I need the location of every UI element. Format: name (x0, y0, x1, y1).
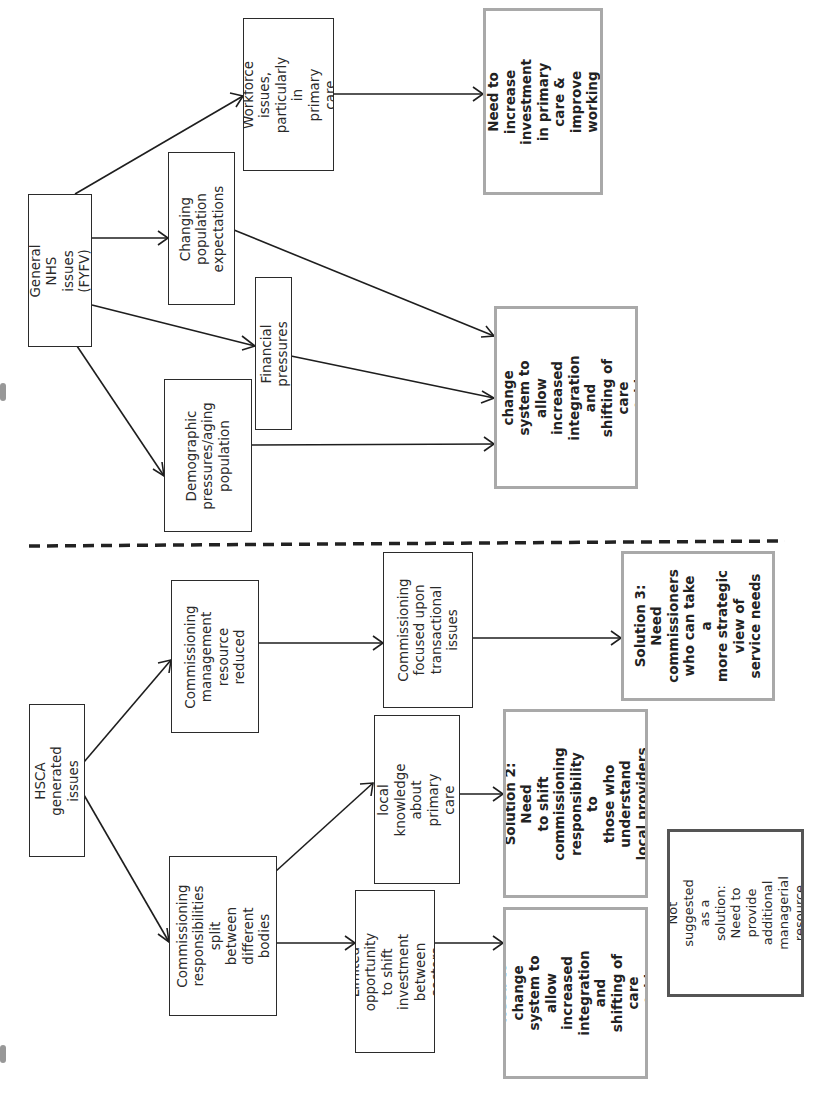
node-commissioning-management-reduced: Commissioning management resource reduce… (171, 580, 259, 733)
arrow-loss-local-to-solution2 (459, 787, 503, 801)
node-label: Changing population expectations (177, 185, 226, 272)
node-solution-3: Solution 3: Need commissioners who can t… (621, 551, 775, 701)
node-label: Loss of local knowledge about primary ca… (374, 763, 460, 836)
node-label: Solution 3: Need commissioners who can t… (632, 569, 764, 682)
node-not-suggested-solution: Not suggested as a solution: Need to pro… (667, 829, 804, 997)
arrow-workforce-to-solution4 (333, 87, 483, 101)
arrow-demographic-to-solution1 (251, 437, 494, 451)
arrow-hsca-to-comm-mgmt (84, 660, 171, 762)
node-label: Financial pressures (257, 321, 290, 386)
node-commissioning-responsibilities-split: Commissioning responsibilities split bet… (169, 856, 277, 1016)
arrow-limited-to-solution1 (434, 936, 503, 950)
node-solution-1-bottom: Solution 1: Need to change system to all… (503, 907, 648, 1079)
node-workforce-issues: Workforce issues, particularly in primar… (243, 18, 334, 171)
node-financial-pressures: Financial pressures (255, 277, 292, 430)
arrow-comm-focused-to-solution3 (473, 631, 621, 645)
node-hsca-generated-issues: HSCA generated issues (29, 704, 85, 857)
node-label: Solution 1: Need to change system to all… (503, 950, 648, 1035)
panel-divider (29, 541, 785, 546)
arrow-general-to-financial (92, 305, 255, 350)
cropped-panel-label-mark (0, 1045, 6, 1063)
cropped-panel-label-mark (0, 383, 6, 401)
node-label: Commissioning management resource reduce… (182, 605, 248, 708)
arrow-general-to-demographic (77, 346, 164, 476)
node-label: Limited opportunity to shift investment … (355, 932, 435, 1011)
node-label: Commissioning focused upon transactional… (395, 578, 461, 681)
node-solution-2: Solution 2: Need to shift commissioning … (503, 709, 648, 898)
node-label: Commissioning responsibilities split bet… (174, 884, 273, 987)
node-changing-population-expectations: Changing population expectations (168, 152, 235, 305)
causal-diagram: General NHS issues (FYFV) Workforce issu… (0, 0, 813, 1119)
node-label: Solution 4: Need to increase investment … (483, 53, 603, 150)
node-label: General NHS issues (FYFV) (28, 244, 92, 297)
node-commissioning-focused-transactional: Commissioning focused upon transactional… (383, 552, 473, 708)
node-solution-4: Solution 4: Need to increase investment … (483, 8, 603, 195)
node-label: Solution 2: Need to shift commissioning … (503, 747, 648, 861)
arrow-comm-mgmt-to-comm-focused (259, 636, 383, 650)
node-limited-opportunity: Limited opportunity to shift investment … (355, 890, 435, 1053)
node-general-nhs-issues: General NHS issues (FYFV) (28, 194, 92, 347)
node-demographic-pressures: Demographic pressures/aging population (164, 379, 252, 532)
node-label: Solution 1: Need to change system to all… (494, 355, 638, 440)
arrow-comm-split-to-limited (276, 936, 355, 950)
arrow-financial-to-solution1 (291, 356, 494, 403)
arrow-hsca-to-comm-split (84, 795, 169, 942)
node-loss-of-local-knowledge: Loss of local knowledge about primary ca… (374, 715, 460, 884)
node-solution-1-top: Solution 1: Need to change system to all… (494, 306, 638, 489)
arrow-general-to-changing (92, 231, 168, 245)
arrow-comm-split-to-loss-local (275, 783, 373, 872)
node-label: HSCA generated issues (32, 746, 81, 816)
node-label: Demographic pressures/aging population (183, 402, 232, 510)
node-label: Not suggested as a solution: Need to pro… (667, 876, 804, 950)
node-label: Workforce issues, particularly in primar… (243, 56, 334, 133)
